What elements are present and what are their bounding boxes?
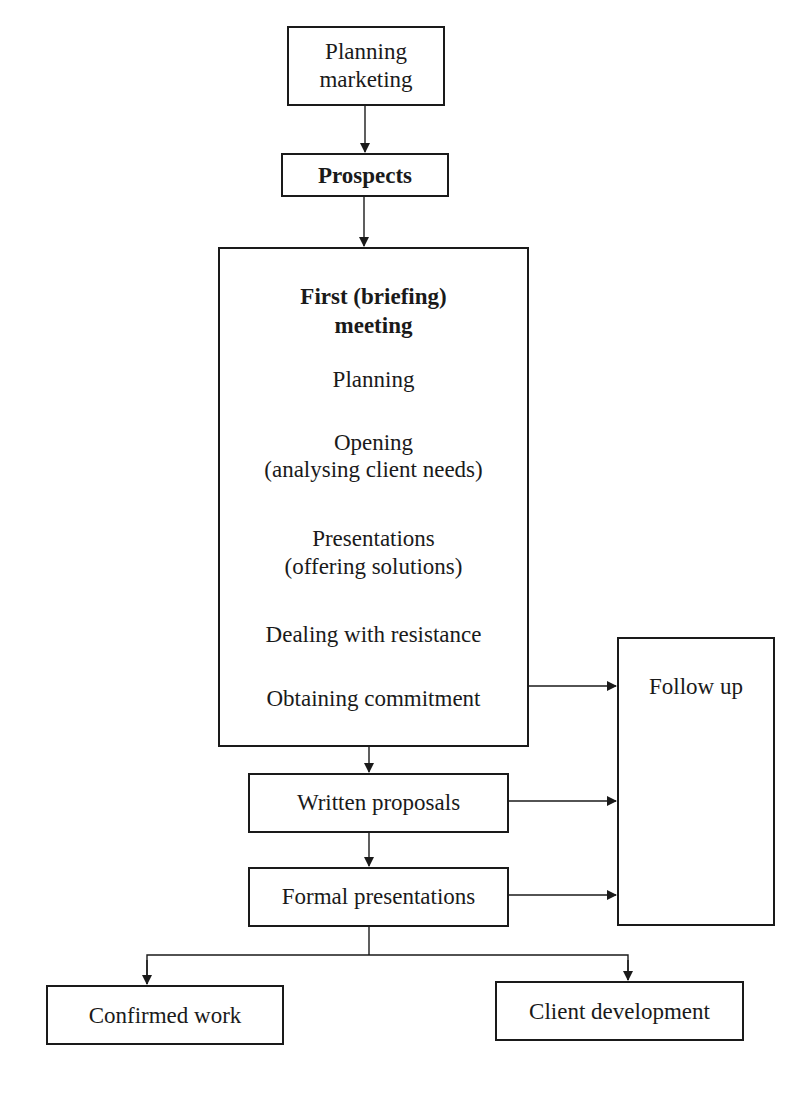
node-label: marketing bbox=[289, 66, 443, 93]
node-formal-presentations: Formal presentations bbox=[248, 867, 509, 927]
step-planning: Planning bbox=[220, 366, 527, 393]
step-obtaining-commitment: Obtaining commitment bbox=[220, 685, 527, 712]
node-title: meeting bbox=[220, 312, 527, 339]
node-label: Prospects bbox=[283, 162, 447, 189]
node-planning-marketing: Planning marketing bbox=[287, 26, 445, 106]
node-prospects: Prospects bbox=[281, 153, 449, 197]
node-label: Planning bbox=[289, 38, 443, 65]
node-title: First (briefing) bbox=[220, 283, 527, 310]
node-label: Follow up bbox=[619, 673, 773, 700]
node-label: Written proposals bbox=[250, 789, 507, 816]
node-confirmed-work: Confirmed work bbox=[46, 985, 284, 1045]
step-presentations-detail: (offering solutions) bbox=[220, 553, 527, 580]
step-opening-detail: (analysing client needs) bbox=[220, 456, 527, 483]
step-opening: Opening bbox=[220, 429, 527, 456]
step-presentations: Presentations bbox=[220, 525, 527, 552]
node-follow-up: Follow up bbox=[617, 637, 775, 926]
node-client-development: Client development bbox=[495, 981, 744, 1041]
node-label: Formal presentations bbox=[250, 883, 507, 910]
node-written-proposals: Written proposals bbox=[248, 773, 509, 833]
step-dealing-with-resistance: Dealing with resistance bbox=[220, 621, 527, 648]
node-first-briefing-meeting: First (briefing) meeting Planning Openin… bbox=[218, 247, 529, 747]
node-label: Client development bbox=[497, 998, 742, 1025]
node-label: Confirmed work bbox=[48, 1002, 282, 1029]
